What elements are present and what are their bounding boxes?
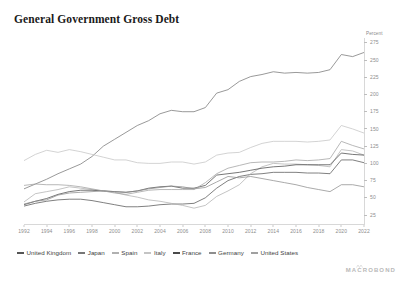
x-tick-label: 1992: [18, 228, 30, 234]
x-tick-label: 2012: [245, 228, 257, 234]
legend-color-swatch: [78, 252, 85, 254]
legend-color-swatch: [112, 252, 119, 254]
x-tick-label: 2020: [336, 228, 348, 234]
y-tick-label: 175: [370, 108, 379, 114]
series-line: [24, 125, 364, 164]
chart-legend: United KingdomJapanSpainItalyFranceGerma…: [17, 248, 298, 258]
macrobond-watermark: MACROBOND: [346, 267, 396, 273]
series-line: [24, 153, 364, 205]
series-line: [24, 52, 364, 188]
y-tick-label: 200: [370, 91, 379, 97]
y-axis-unit-label: Percent: [366, 31, 383, 36]
y-tick-mark: [364, 94, 367, 95]
y-tick-mark: [364, 163, 367, 164]
y-tick-mark: [364, 128, 367, 129]
y-tick-mark: [364, 197, 367, 198]
y-tick-mark: [364, 215, 367, 216]
x-tick-label: 2004: [154, 228, 166, 234]
legend-label: Japan: [88, 249, 105, 257]
x-tick-mark: [137, 225, 138, 227]
legend-item[interactable]: Italy: [144, 249, 165, 257]
x-tick-mark: [24, 225, 25, 227]
x-axis: 1992199419961998200020022004200620082010…: [24, 225, 365, 239]
y-tick-label: 125: [370, 143, 379, 149]
legend-label: Italy: [154, 249, 166, 257]
legend-color-swatch: [173, 252, 180, 254]
legend-color-swatch: [251, 252, 258, 254]
y-tick-label: 225: [370, 74, 379, 80]
x-tick-label: 2008: [200, 228, 212, 234]
y-tick-mark: [364, 60, 367, 61]
x-tick-mark: [273, 225, 274, 227]
y-tick-mark: [364, 111, 367, 112]
y-tick-label: 100: [370, 160, 379, 166]
page-title: General Government Gross Debt: [14, 13, 179, 25]
x-tick-label: 2022: [358, 228, 370, 234]
legend-item[interactable]: Japan: [78, 249, 105, 257]
legend-label: Germany: [218, 249, 244, 257]
y-tick-mark: [364, 146, 367, 147]
y-tick-label: 25: [370, 212, 376, 218]
y-axis: 275250225200175150125100755025: [364, 38, 404, 224]
legend-label: Spain: [121, 249, 137, 257]
x-tick-mark: [318, 225, 319, 227]
series-line: [24, 141, 364, 194]
series-line: [24, 160, 364, 207]
legend-color-swatch: [17, 252, 24, 254]
legend-color-swatch: [209, 252, 216, 254]
legend-item[interactable]: France: [173, 249, 202, 257]
x-tick-mark: [160, 225, 161, 227]
x-tick-label: 2002: [132, 228, 144, 234]
legend-item[interactable]: Germany: [209, 249, 244, 257]
x-tick-mark: [182, 225, 183, 227]
x-tick-label: 2016: [290, 228, 302, 234]
x-tick-mark: [250, 225, 251, 227]
plot-area: [24, 38, 364, 224]
watermark-label: MACROBOND: [346, 267, 396, 273]
y-tick-mark: [364, 180, 367, 181]
y-tick-label: 250: [370, 57, 379, 63]
y-tick-label: 275: [370, 39, 379, 45]
legend-item[interactable]: United States: [251, 249, 298, 257]
legend-color-swatch: [144, 252, 151, 254]
x-tick-mark: [205, 225, 206, 227]
x-tick-label: 2006: [177, 228, 189, 234]
x-tick-mark: [228, 225, 229, 227]
x-tick-label: 2018: [313, 228, 325, 234]
x-tick-label: 1996: [64, 228, 76, 234]
x-tick-mark: [296, 225, 297, 227]
x-tick-label: 2014: [268, 228, 280, 234]
y-tick-mark: [364, 77, 367, 78]
macrobond-logo-icon: [356, 264, 363, 268]
legend-item[interactable]: Spain: [112, 249, 138, 257]
legend-item[interactable]: United Kingdom: [17, 249, 71, 257]
legend-label: France: [182, 249, 202, 257]
x-tick-label: 1998: [86, 228, 98, 234]
x-tick-mark: [341, 225, 342, 227]
chart-container: General Government Gross Debt Percent 27…: [0, 0, 407, 282]
y-tick-label: 150: [370, 126, 379, 132]
series-line: [24, 176, 364, 204]
x-tick-label: 2000: [109, 228, 121, 234]
legend-label: United States: [260, 249, 298, 257]
x-tick-mark: [92, 225, 93, 227]
plot-lines: [24, 38, 364, 224]
x-tick-mark: [46, 225, 47, 227]
x-tick-label: 1994: [41, 228, 53, 234]
y-tick-mark: [364, 42, 367, 43]
x-tick-mark: [364, 225, 365, 227]
x-tick-mark: [114, 225, 115, 227]
x-tick-mark: [69, 225, 70, 227]
y-tick-label: 75: [370, 177, 376, 183]
x-tick-label: 2010: [222, 228, 234, 234]
y-tick-label: 50: [370, 194, 376, 200]
legend-label: United Kingdom: [27, 249, 72, 257]
